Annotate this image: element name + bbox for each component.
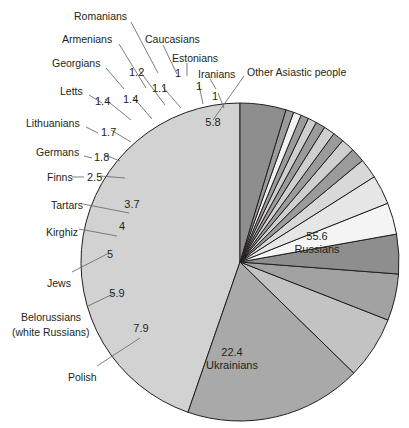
leader-lithuanians (86, 127, 98, 133)
num-1-1: 1.1 (152, 82, 167, 94)
num-1: 1 (175, 67, 181, 79)
pie-slices-group (81, 103, 399, 421)
num-1-4b: 1.4 (123, 93, 138, 105)
slice-value-kirghiz: 4 (119, 220, 125, 232)
label-other-asiastic-people: Other Asiastic people (247, 66, 346, 78)
label-belorussians: Belorussians (21, 311, 81, 323)
label-jews: Jews (47, 277, 71, 289)
label-caucasians: Caucasians (145, 33, 200, 45)
num-1c: 1 (212, 90, 218, 102)
num-1-2: 1.2 (129, 66, 144, 78)
slice-value-belorussians: 5.9 (109, 287, 124, 299)
label-romanians: Romanians (74, 10, 127, 22)
num-1-8: 1.8 (94, 151, 109, 163)
label-armenians: Armenians (62, 33, 112, 45)
slice-value-other-asiastic: 5.8 (205, 116, 220, 128)
label-lithuanians: Lithuanians (26, 117, 80, 129)
label-letts: Letts (60, 85, 83, 97)
slice-value-jews: 5 (107, 248, 113, 260)
label-estonians: Estonians (172, 52, 218, 64)
leader-germans (84, 156, 92, 158)
num-1-7: 1.7 (101, 126, 116, 138)
num-1b: 1 (196, 80, 202, 92)
label-kirghiz: Kirghiz (46, 226, 78, 238)
label-germans: Germans (36, 146, 79, 158)
label-finns: Finns (47, 171, 73, 183)
num-2-5: 2.5 (87, 171, 102, 183)
leader-iranians (210, 79, 216, 89)
num-1-4a: 1.4 (95, 95, 110, 107)
label-tartars: Tartars (51, 199, 83, 211)
pie-chart-page: 55.6Russians22.4Ukrainians5.87.95.9543.7… (0, 0, 409, 428)
slice-value-polish: 7.9 (133, 322, 148, 334)
label-iranians: Iranians (198, 68, 235, 80)
label-polish: Polish (68, 371, 97, 383)
slice-value-tartars: 3.7 (124, 198, 139, 210)
label-belorussians-sub: (white Russians) (12, 326, 90, 338)
leader-georgians (106, 68, 124, 89)
label-georgians: Georgians (52, 57, 100, 69)
